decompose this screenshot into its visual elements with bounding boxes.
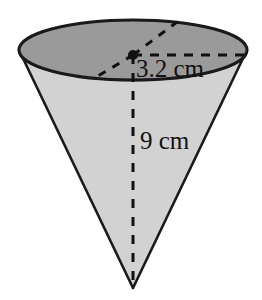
radius-dimension-label: 3.2 cm: [136, 56, 204, 81]
cone-figure: 3.2 cm 9 cm: [0, 0, 262, 300]
cone-drawing: [0, 0, 262, 300]
height-dimension-label: 9 cm: [140, 128, 189, 153]
